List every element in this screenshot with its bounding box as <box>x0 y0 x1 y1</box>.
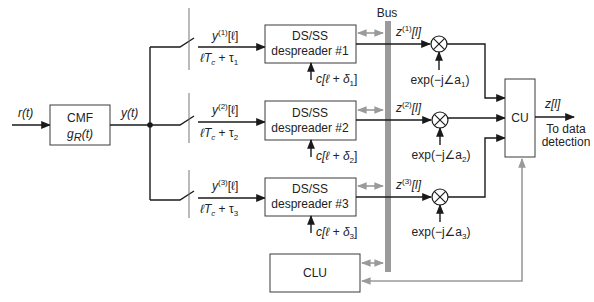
code-label-3: c[ℓ + δ3] <box>316 225 357 241</box>
despreader-3: DS/SS despreader #3 c[ℓ + δ3] <box>265 178 357 241</box>
junction-signal-label: y(t) <box>120 106 138 120</box>
multiplier-2-icon <box>432 112 448 128</box>
timing-label-3: ℓTc + τ3 <box>200 202 239 218</box>
despreader-2-line2: despreader #2 <box>271 121 349 135</box>
rake-receiver-block-diagram: r(t) CMF gR(t) y(t) y(1)[ℓ] ℓTc + τ1 y(2… <box>0 0 594 302</box>
combiner-input-3 <box>448 138 505 197</box>
clu-title: CLU <box>303 266 327 280</box>
sample-label-1: y(1)[ℓ] <box>211 28 238 43</box>
output-label-2: z(2)[l] <box>395 100 422 115</box>
switch-3 <box>150 191 194 200</box>
cu-block: CU <box>505 79 535 157</box>
cmf-block: CMF gR(t) <box>50 105 110 145</box>
input-signal-label: r(t) <box>18 106 33 120</box>
despreader-3-line1: DS/SS <box>292 182 328 196</box>
combiner-input-1 <box>447 44 505 98</box>
combiner-output-label: z[l] <box>544 97 561 111</box>
switch-2 <box>150 116 194 125</box>
destination-line2: detection <box>542 135 591 149</box>
switch-1 <box>150 38 194 47</box>
output-label-1: z(1)[l] <box>395 24 422 39</box>
multiplier-3-icon <box>432 189 448 205</box>
cu-title: CU <box>511 111 528 125</box>
timing-label-1: ℓTc + τ1 <box>200 51 239 67</box>
clu-block: CLU <box>270 254 360 292</box>
despreader-3-line2: despreader #3 <box>271 197 349 211</box>
timing-label-2: ℓTc + τ2 <box>200 126 239 142</box>
input-signal: r(t) <box>12 106 50 125</box>
output-label-3: z(3)[l] <box>395 177 422 192</box>
despreader-1-line2: despreader #1 <box>271 44 349 58</box>
code-label-2: c[ℓ + δ2] <box>316 149 357 165</box>
despreader-1-line1: DS/SS <box>292 29 328 43</box>
bus-bar <box>385 21 391 272</box>
despreader-2: DS/SS despreader #2 c[ℓ + δ2] <box>265 101 357 165</box>
multiplier-1-icon <box>431 36 447 52</box>
phase-label-1: exp(−j∠a1) <box>411 73 470 89</box>
cmf-title: CMF <box>67 111 93 125</box>
phase-label-2: exp(−j∠a2) <box>412 148 471 164</box>
code-label-1: c[ℓ + δ1] <box>316 72 357 88</box>
sample-label-3: y(3)[ℓ] <box>211 178 238 193</box>
phase-label-3: exp(−j∠a3) <box>412 225 471 241</box>
despreader-1: DS/SS despreader #1 c[ℓ + δ1] <box>265 25 357 88</box>
bus-label: Bus <box>377 6 398 20</box>
destination-line1: To data <box>546 122 586 136</box>
sample-label-2: y(2)[ℓ] <box>211 102 238 117</box>
despreader-2-line1: DS/SS <box>292 106 328 120</box>
